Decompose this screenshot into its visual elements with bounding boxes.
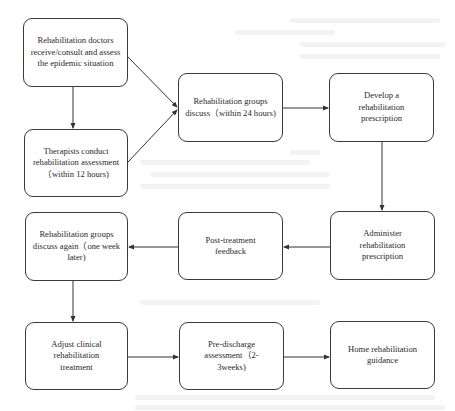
- node-doctors-receive-consult: Rehabilitation doctors receive/consult a…: [23, 18, 128, 87]
- node-therapists-assessment: Therapists conduct rehabilitation assess…: [24, 129, 128, 197]
- node-label: Rehabilitation groups discuss again（one …: [32, 229, 121, 264]
- node-label: Administer rehabilitation prescription: [345, 228, 420, 263]
- node-label: Post-treatment feedback: [195, 235, 266, 258]
- node-pre-discharge-assessment: Pre-discharge assessment（2-3weeks): [179, 322, 284, 390]
- node-administer-prescription: Administer rehabilitation prescription: [330, 211, 435, 280]
- node-adjust-clinical-treatment: Adjust clinical rehabilitation treatment: [25, 322, 128, 390]
- arrow-n1-to-n3: [128, 57, 177, 107]
- node-label: Therapists conduct rehabilitation assess…: [31, 146, 121, 181]
- node-label: Develop a rehabilitation prescription: [344, 90, 419, 125]
- arrow-n2-to-n3: [128, 110, 177, 162]
- node-label: Home rehabilitation guidance: [339, 344, 426, 367]
- node-label: Rehabilitation doctors receive/consult a…: [30, 35, 121, 70]
- node-label: Rehabilitation groups discuss（within 24 …: [185, 96, 276, 119]
- node-post-treatment-feedback: Post-treatment feedback: [178, 212, 283, 280]
- node-develop-prescription: Develop a rehabilitation prescription: [329, 73, 434, 142]
- node-label: Adjust clinical rehabilitation treatment: [42, 339, 111, 374]
- node-home-rehabilitation-guidance: Home rehabilitation guidance: [330, 321, 435, 389]
- node-groups-discuss-again: Rehabilitation groups discuss again（one …: [25, 212, 128, 281]
- node-groups-discuss: Rehabilitation groups discuss（within 24 …: [178, 73, 283, 142]
- node-label: Pre-discharge assessment（2-3weeks): [194, 339, 269, 374]
